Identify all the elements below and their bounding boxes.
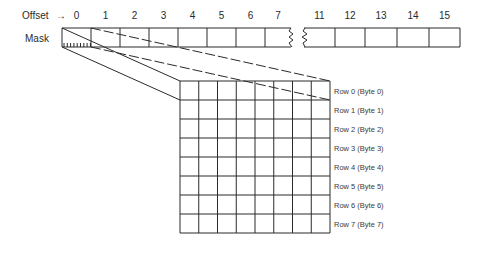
- row-label: Row 1 (Byte 1): [334, 106, 384, 115]
- row-label: Row 4 (Byte 4): [334, 163, 384, 172]
- offset-number: 3: [161, 10, 167, 21]
- offset-number: 2: [132, 10, 138, 21]
- offset-numbers-left: 01234567: [74, 10, 282, 21]
- row-label: Row 0 (Byte 0): [334, 87, 384, 96]
- row-label: Row 2 (Byte 2): [334, 125, 384, 134]
- offset-number: 15: [439, 10, 451, 21]
- offset-number: 0: [74, 10, 80, 21]
- offset-number: 14: [407, 10, 419, 21]
- offset-numbers-right: 1112131415: [314, 10, 450, 21]
- offset-number: 11: [314, 10, 325, 21]
- offset-arrow-icon: →: [56, 10, 66, 21]
- offset-label: Offset: [22, 10, 49, 21]
- row-label: Row 5 (Byte 5): [334, 182, 384, 191]
- byte-grid: [180, 81, 330, 233]
- row-label: Row 7 (Byte 7): [334, 220, 384, 229]
- offset-number: 1: [103, 10, 109, 21]
- break-mark-icon: [289, 28, 293, 47]
- mask-bar-left: [62, 28, 293, 47]
- offset-number: 4: [190, 10, 196, 21]
- offset-number: 6: [248, 10, 254, 21]
- offset-number: 13: [375, 10, 387, 21]
- break-mark-icon: [302, 28, 307, 47]
- mask-label: Mask: [25, 33, 50, 44]
- row-labels: Row 0 (Byte 0)Row 1 (Byte 1)Row 2 (Byte …: [334, 87, 384, 229]
- offset-number: 7: [275, 10, 281, 21]
- mask-byte-ticks: [64, 43, 90, 47]
- mask-diagram: Offset → Mask 01234567 1112131415 Row 0 …: [0, 0, 485, 254]
- projection-lines: [62, 28, 330, 100]
- mask-bar-right: [302, 28, 460, 47]
- row-label: Row 3 (Byte 3): [334, 144, 384, 153]
- row-label: Row 6 (Byte 6): [334, 201, 384, 210]
- offset-number: 12: [344, 10, 356, 21]
- offset-number: 5: [219, 10, 225, 21]
